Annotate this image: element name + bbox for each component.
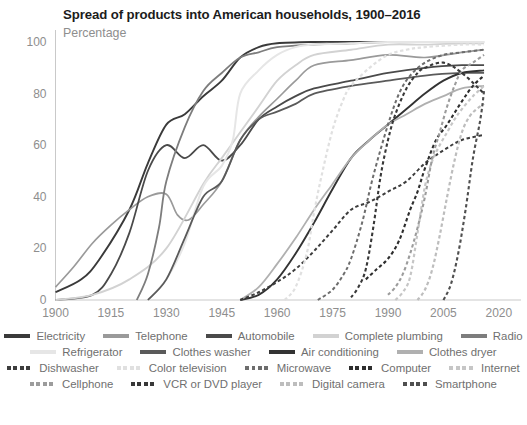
legend-label: Clothes dryer <box>429 346 497 358</box>
legend-item-internet[interactable]: Internet <box>449 362 520 374</box>
legend-label: Color television <box>149 362 227 374</box>
svg-text:100: 100 <box>26 35 46 49</box>
legend-swatch-icon <box>313 334 339 338</box>
legend-swatch-icon <box>349 366 375 370</box>
legend-label: Digital camera <box>312 378 385 390</box>
legend-label: Computer <box>381 362 431 374</box>
legend-swatch-icon <box>206 334 232 338</box>
legend-item-microwave[interactable]: Microwave <box>245 362 331 374</box>
legend-item-cellphone[interactable]: Cellphone <box>30 378 113 390</box>
legend-label: Radio <box>493 330 523 342</box>
legend-swatch-icon <box>30 382 56 386</box>
chart-container: Spread of products into American househo… <box>0 0 527 425</box>
legend-swatch-icon <box>397 350 423 354</box>
series-line <box>56 65 485 300</box>
series-line <box>366 76 484 280</box>
legend-item-automobile[interactable]: Automobile <box>206 330 295 342</box>
svg-text:0: 0 <box>40 293 47 307</box>
legend-swatch-icon <box>30 350 56 354</box>
legend-label: Internet <box>481 362 520 374</box>
series-line <box>395 86 484 300</box>
legend-swatch-icon <box>403 382 429 386</box>
svg-text:1930: 1930 <box>153 306 180 320</box>
legend-item-telephone[interactable]: Telephone <box>103 330 188 342</box>
series-line <box>137 42 484 300</box>
legend-label: Dishwasher <box>39 362 99 374</box>
svg-text:2005: 2005 <box>430 306 457 320</box>
series-line <box>56 42 485 292</box>
series-line <box>351 63 484 298</box>
legend-swatch-icon <box>269 350 295 354</box>
legend-item-smartphone[interactable]: Smartphone <box>403 378 497 390</box>
series-line <box>56 50 485 287</box>
legend-label: Clothes washer <box>172 346 251 358</box>
legend-row: DishwasherColor televisionMicrowaveCompu… <box>0 362 527 374</box>
svg-text:1945: 1945 <box>208 306 235 320</box>
legend-label: Air conditioning <box>301 346 379 358</box>
legend-item-electricity[interactable]: Electricity <box>4 330 85 342</box>
legend-label: Electricity <box>36 330 85 342</box>
svg-text:20: 20 <box>33 241 47 255</box>
legend-swatch-icon <box>245 366 271 370</box>
legend-row: RefrigeratorClothes washerAir conditioni… <box>0 346 527 358</box>
legend-row: ElectricityTelephoneAutomobileComplete p… <box>0 330 527 342</box>
series-line <box>240 135 484 300</box>
svg-text:1990: 1990 <box>375 306 402 320</box>
svg-text:1975: 1975 <box>319 306 346 320</box>
svg-text:1960: 1960 <box>264 306 291 320</box>
svg-text:1915: 1915 <box>98 306 125 320</box>
legend-item-complete-plumbing[interactable]: Complete plumbing <box>313 330 443 342</box>
legend-row: CellphoneVCR or DVD playerDigital camera… <box>0 378 527 390</box>
legend-item-vcr-or-dvd-player[interactable]: VCR or DVD player <box>131 378 262 390</box>
legend-swatch-icon <box>449 366 475 370</box>
legend-swatch-icon <box>140 350 166 354</box>
legend-label: Telephone <box>135 330 188 342</box>
legend-item-color-television[interactable]: Color television <box>117 362 227 374</box>
legend-swatch-icon <box>103 334 129 338</box>
legend-swatch-icon <box>117 366 143 370</box>
line-chart-plot: 0204060801001900191519301945196019751990… <box>0 0 527 330</box>
legend-item-computer[interactable]: Computer <box>349 362 431 374</box>
legend-swatch-icon <box>7 366 33 370</box>
legend-label: Complete plumbing <box>345 330 443 342</box>
svg-text:1900: 1900 <box>42 306 69 320</box>
legend-swatch-icon <box>131 382 157 386</box>
legend-item-air-conditioning[interactable]: Air conditioning <box>269 346 379 358</box>
chart-legend: ElectricityTelephoneAutomobileComplete p… <box>0 330 527 390</box>
svg-text:40: 40 <box>33 190 47 204</box>
svg-text:80: 80 <box>33 87 47 101</box>
series-line <box>418 104 485 300</box>
legend-label: Cellphone <box>62 378 113 390</box>
legend-label: Refrigerator <box>62 346 122 358</box>
legend-label: VCR or DVD player <box>163 378 262 390</box>
legend-swatch-icon <box>4 334 30 338</box>
svg-text:60: 60 <box>33 138 47 152</box>
legend-item-digital-camera[interactable]: Digital camera <box>280 378 385 390</box>
legend-item-refrigerator[interactable]: Refrigerator <box>30 346 122 358</box>
legend-item-clothes-dryer[interactable]: Clothes dryer <box>397 346 497 358</box>
series-line <box>56 43 485 300</box>
legend-swatch-icon <box>280 382 306 386</box>
legend-label: Smartphone <box>435 378 497 390</box>
legend-swatch-icon <box>461 334 487 338</box>
legend-item-dishwasher[interactable]: Dishwasher <box>7 362 99 374</box>
svg-text:2020: 2020 <box>485 306 512 320</box>
series-line <box>240 86 484 300</box>
legend-item-radio[interactable]: Radio <box>461 330 523 342</box>
legend-label: Microwave <box>277 362 331 374</box>
legend-label: Automobile <box>238 330 295 342</box>
legend-item-clothes-washer[interactable]: Clothes washer <box>140 346 251 358</box>
